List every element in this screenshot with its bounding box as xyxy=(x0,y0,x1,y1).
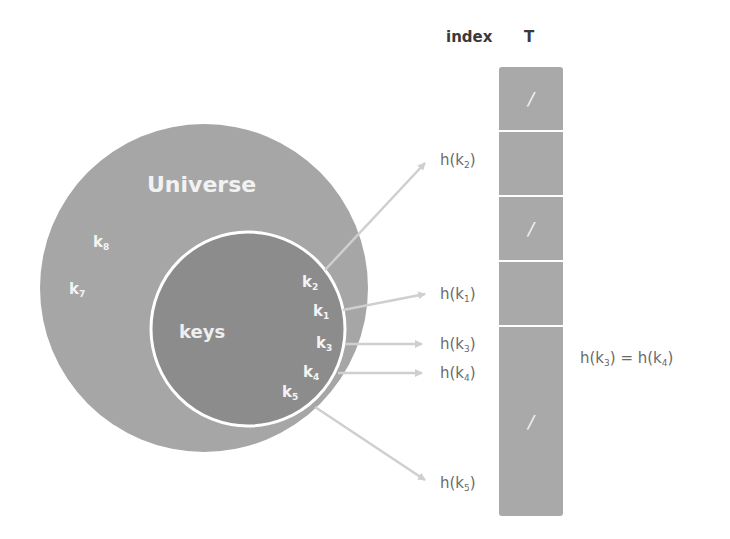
key-base: k xyxy=(316,334,326,352)
key-subscript: 7 xyxy=(79,289,85,299)
key-base: k xyxy=(302,273,312,291)
key-k8: k8 xyxy=(93,233,109,252)
collision-note: h(k3) = h(k4) xyxy=(580,349,673,368)
table-slot-4 xyxy=(499,327,563,390)
hash-prefix: h(k xyxy=(440,285,464,303)
keys-label: keys xyxy=(179,321,225,342)
hash-suffix: ) xyxy=(470,474,476,492)
table-header: T xyxy=(524,28,534,46)
key-base: k xyxy=(69,280,79,298)
key-base: k xyxy=(282,383,292,401)
hash-label-k2: h(k2) xyxy=(440,151,476,170)
index-header: index xyxy=(446,28,492,46)
universe-label: Universe xyxy=(147,172,256,197)
key-base: k xyxy=(93,233,103,251)
note-text: ) xyxy=(668,349,674,367)
hash-suffix: ) xyxy=(470,285,476,303)
key-k5: k5 xyxy=(282,383,298,402)
key-k7: k7 xyxy=(69,280,85,299)
key-k2: k2 xyxy=(302,273,318,292)
table-slot-1 xyxy=(499,132,563,195)
key-subscript: 8 xyxy=(103,242,109,252)
key-k1: k1 xyxy=(313,302,329,321)
table-slot-3 xyxy=(499,262,563,325)
key-base: k xyxy=(303,363,313,381)
arrow-k5 xyxy=(315,407,425,480)
hash-label-k3: h(k3) xyxy=(440,335,476,354)
key-base: k xyxy=(313,302,323,320)
table-slot-0: / xyxy=(499,67,563,130)
hash-prefix: h(k xyxy=(440,364,464,382)
hash-prefix: h(k xyxy=(440,474,464,492)
hash-suffix: ) xyxy=(470,151,476,169)
key-subscript: 5 xyxy=(292,392,298,402)
hash-prefix: h(k xyxy=(440,151,464,169)
nil-slash-icon: / xyxy=(528,218,534,239)
table-slot-5: / xyxy=(499,390,563,453)
hash-prefix: h(k xyxy=(440,335,464,353)
nil-slash-icon: / xyxy=(528,411,534,432)
key-k4: k4 xyxy=(303,363,319,382)
key-k3: k3 xyxy=(316,334,332,353)
table-slot-2: / xyxy=(499,197,563,260)
note-text: h(k xyxy=(580,349,604,367)
table-slot-6 xyxy=(499,453,563,516)
diagram-shapes xyxy=(0,0,730,539)
key-subscript: 3 xyxy=(326,343,332,353)
key-subscript: 1 xyxy=(323,311,329,321)
note-text: ) = h(k xyxy=(610,349,662,367)
hash-suffix: ) xyxy=(470,364,476,382)
hash-label-k5: h(k5) xyxy=(440,474,476,493)
key-subscript: 2 xyxy=(312,282,318,292)
hash-label-k4: h(k4) xyxy=(440,364,476,383)
hash-suffix: ) xyxy=(470,335,476,353)
hash-table-diagram: index T Universe k8 k7 keys k2 k1 k3 k4 … xyxy=(0,0,730,539)
hash-label-k1: h(k1) xyxy=(440,285,476,304)
key-subscript: 4 xyxy=(313,372,319,382)
nil-slash-icon: / xyxy=(528,88,534,109)
